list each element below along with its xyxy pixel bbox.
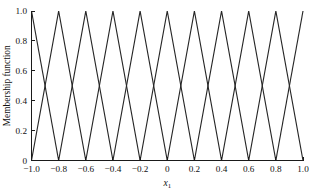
y-tick-label: 0 [22, 156, 27, 166]
y-tick-labels: 00.20.40.60.81.0 [16, 6, 28, 166]
x-tick-label: −0.4 [105, 164, 122, 174]
x-tick-label: 0.2 [189, 164, 201, 174]
membership-curve-mf9 [222, 11, 276, 161]
y-axis-title: Membership function [2, 45, 12, 126]
membership-function-chart: −1.0−0.8−0.6−0.4−0.200.20.40.60.81.0 00.… [0, 0, 309, 191]
x-tick-label: 0.4 [216, 164, 228, 174]
membership-curve-mf7 [167, 11, 221, 161]
y-tick-label: 1.0 [16, 6, 28, 16]
membership-curve-mf6 [140, 11, 194, 161]
membership-curve-mf2 [32, 11, 86, 161]
chart-canvas: −1.0−0.8−0.6−0.4−0.200.20.40.60.81.0 00.… [0, 0, 309, 191]
x-tick-label: 0 [165, 164, 170, 174]
x-tick-label: 1.0 [297, 164, 309, 174]
membership-curve-mf8 [194, 11, 248, 161]
plot-curves [32, 11, 304, 161]
x-tick-label: 0.6 [243, 164, 255, 174]
x-axis-title: x1 [162, 177, 171, 189]
x-tick-label: 0.8 [270, 164, 282, 174]
membership-curve-mf5 [113, 11, 167, 161]
membership-curve-mf10 [249, 11, 303, 161]
membership-curve-mf4 [86, 11, 140, 161]
y-tick-label: 0.2 [16, 126, 28, 136]
y-tick-label: 0.4 [16, 96, 28, 106]
y-axis-title-text: Membership function [2, 45, 12, 126]
x-tick-label: −0.8 [50, 164, 67, 174]
x-axis-title-text: x1 [162, 177, 171, 189]
x-tick-label: −0.2 [132, 164, 149, 174]
membership-curve-mf3 [59, 11, 113, 161]
y-tick-label: 0.6 [16, 66, 28, 76]
x-tick-label: −0.6 [77, 164, 94, 174]
y-tick-label: 0.8 [16, 36, 28, 46]
x-tick-labels: −1.0−0.8−0.6−0.4−0.200.20.40.60.81.0 [23, 164, 309, 174]
